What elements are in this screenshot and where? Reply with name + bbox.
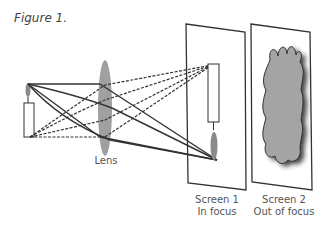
candle-body xyxy=(24,103,34,137)
screen-2-subtitle: Out of focus xyxy=(248,206,320,218)
screen-1-label: Screen 1 In focus xyxy=(183,194,251,218)
screen-1-subtitle: In focus xyxy=(183,206,251,218)
image-candle-body xyxy=(208,64,219,122)
screen-2-label: Screen 2 Out of focus xyxy=(248,194,320,218)
lens xyxy=(98,60,112,156)
image-flame xyxy=(211,132,218,160)
screen-2-title: Screen 2 xyxy=(248,194,320,206)
candle-object xyxy=(24,83,34,137)
rays-dashed xyxy=(30,65,212,137)
lens-label: Lens xyxy=(88,155,124,167)
blurred-image xyxy=(263,47,307,167)
screen-1-title: Screen 1 xyxy=(183,194,251,206)
